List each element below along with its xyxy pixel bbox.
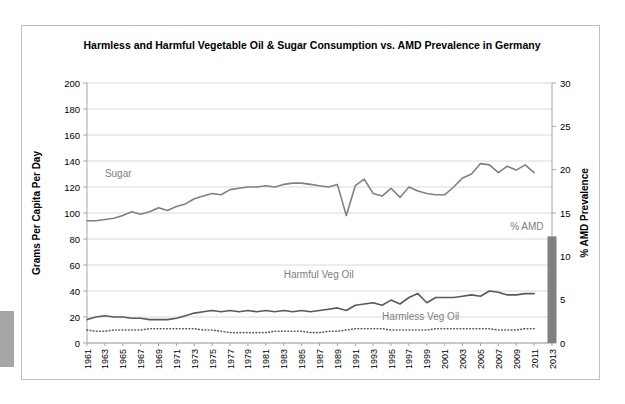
x-axis-tick-label: 1997 bbox=[404, 349, 414, 369]
secondary-y-axis-title: % AMD Prevalence bbox=[579, 168, 590, 258]
secondary-y-axis-tick-label: 10 bbox=[560, 251, 571, 262]
y-axis-tick-label: 180 bbox=[64, 104, 80, 115]
secondary-y-axis-tick-label: 15 bbox=[560, 208, 571, 219]
x-axis-tick-label: 1977 bbox=[226, 349, 236, 369]
x-axis-tick-label: 1993 bbox=[369, 349, 379, 369]
secondary-y-axis-tick-label: 30 bbox=[560, 78, 571, 89]
y-axis-tick-label: 20 bbox=[69, 312, 80, 323]
x-axis-tick-label: 1963 bbox=[100, 349, 110, 369]
chart-screenshot-root: Harmless and Harmful Vegetable Oil & Sug… bbox=[0, 0, 625, 404]
x-axis-tick-label: 1973 bbox=[190, 349, 200, 369]
secondary-y-axis-tick-labels: 051015202530 bbox=[560, 78, 571, 349]
amd-bar bbox=[548, 236, 557, 343]
x-axis-tick-label: 1969 bbox=[154, 349, 164, 369]
x-axis-tick-label: 1971 bbox=[172, 349, 182, 369]
series-line-harmful-veg-oil bbox=[87, 291, 534, 320]
secondary-y-axis-tick-label: 20 bbox=[560, 164, 571, 175]
amd-prevalence-bar bbox=[548, 236, 557, 343]
x-axis-tick-label: 2007 bbox=[494, 349, 504, 369]
x-axis-tick-label: 1983 bbox=[279, 349, 289, 369]
amd-bar-label: % AMD bbox=[510, 221, 543, 232]
y-axis-tick-label: 140 bbox=[64, 156, 80, 167]
chart-frame: Harmless and Harmful Vegetable Oil & Sug… bbox=[21, 25, 600, 380]
x-axis-tick-label: 1967 bbox=[136, 349, 146, 369]
y-axis-tick-label: 160 bbox=[64, 130, 80, 141]
gridlines bbox=[83, 83, 556, 346]
x-axis-tick-labels: 1961196319651967196919711973197519771979… bbox=[83, 349, 558, 369]
series-label-harmful-veg-oil: Harmful Veg Oil bbox=[284, 269, 354, 280]
x-axis-tick-label: 2009 bbox=[512, 349, 522, 369]
x-axis-tick-label: 1961 bbox=[83, 349, 93, 369]
secondary-y-axis-tick-label: 5 bbox=[560, 294, 565, 305]
series-line-sugar bbox=[87, 164, 534, 221]
x-axis-tick-label: 1995 bbox=[387, 349, 397, 369]
y-axis-tick-label: 200 bbox=[64, 78, 80, 89]
x-axis-tick-label: 2013 bbox=[548, 349, 558, 369]
page-edge-artifact bbox=[0, 311, 14, 367]
y-axis-tick-labels: 020406080100120140160180200 bbox=[64, 78, 80, 349]
x-axis-tick-label: 1987 bbox=[315, 349, 325, 369]
series-label-sugar: Sugar bbox=[105, 168, 132, 179]
y-axis-tick-label: 80 bbox=[69, 234, 80, 245]
y-axis-tick-label: 120 bbox=[64, 182, 80, 193]
y-axis-title: Grams Per Capita Per Day bbox=[31, 151, 42, 275]
y-axis-tick-label: 40 bbox=[69, 286, 80, 297]
x-axis-tick-label: 2001 bbox=[440, 349, 450, 369]
y-axis-tick-label: 0 bbox=[75, 338, 80, 349]
series-label-harmless-veg-oil: Harmless Veg Oil bbox=[382, 311, 459, 322]
x-axis-tick-label: 1999 bbox=[422, 349, 432, 369]
y-axis-tick-label: 100 bbox=[64, 208, 80, 219]
x-axis-tick-label: 2011 bbox=[530, 349, 540, 368]
secondary-y-axis-tick-label: 0 bbox=[560, 338, 565, 349]
series-inline-labels: % AMDSugarHarmful Veg OilHarmless Veg Oi… bbox=[105, 168, 544, 322]
x-axis-tick-label: 2005 bbox=[476, 349, 486, 369]
chart-plot-area: 020406080100120140160180200 051015202530… bbox=[22, 26, 599, 379]
x-axis-tick-label: 1965 bbox=[118, 349, 128, 369]
x-axis-tick-label: 1975 bbox=[208, 349, 218, 369]
x-axis-tick-label: 1981 bbox=[261, 349, 271, 369]
data-series bbox=[87, 164, 534, 333]
series-line-harmless-veg-oil bbox=[87, 329, 534, 333]
y-axis-tick-label: 60 bbox=[69, 260, 80, 271]
secondary-y-axis-tick-label: 25 bbox=[560, 121, 571, 132]
x-axis-tick-label: 1991 bbox=[351, 349, 361, 369]
x-axis-tick-label: 1989 bbox=[333, 349, 343, 369]
x-axis-tick-label: 2003 bbox=[458, 349, 468, 369]
x-axis-tick-label: 1979 bbox=[243, 349, 253, 369]
x-axis-tick-label: 1985 bbox=[297, 349, 307, 369]
